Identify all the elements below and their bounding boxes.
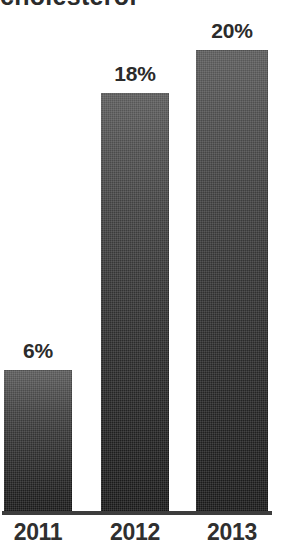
bar-2011 [4,370,72,512]
bar-2012 [101,93,169,512]
x-tick-label-2012: 2012 [101,519,169,545]
bar-value-2011: 6% [4,340,72,361]
bar-chart: cholesterol 6% 18% 20% 2011 2012 2013 [0,0,281,546]
bar-value-2013: 20% [196,20,268,41]
bar-2013 [196,50,268,512]
bar-value-2012: 18% [101,63,169,84]
plot-area: 6% 18% 20% [0,0,281,512]
x-tick-label-2013: 2013 [196,519,268,545]
x-axis-line [2,511,272,515]
x-tick-label-2011: 2011 [4,519,72,545]
